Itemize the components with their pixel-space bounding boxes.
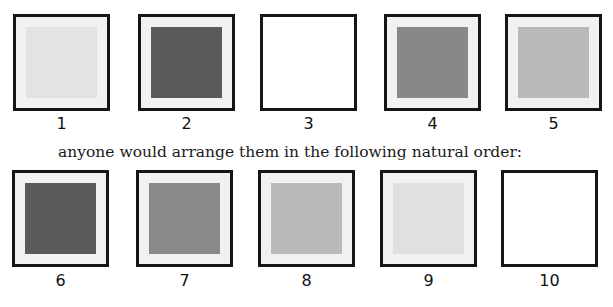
swatch-1-fill [26,27,97,98]
swatch-7-label: 7 [136,271,233,290]
caption-text: anyone would arrange them in the followi… [58,143,522,161]
swatch-10 [501,170,598,267]
swatch-8-fill [271,183,342,254]
swatch-5-label: 5 [505,114,602,133]
swatch-3-label: 3 [260,114,357,133]
swatch-4-fill [397,27,468,98]
swatch-5 [505,14,602,111]
swatch-2 [138,14,235,111]
swatch-1-label: 1 [13,114,110,133]
swatch-10-label: 10 [501,271,598,290]
swatch-4-label: 4 [384,114,481,133]
swatch-8 [258,170,355,267]
swatch-6-fill [25,183,96,254]
swatch-7 [136,170,233,267]
swatch-6 [12,170,109,267]
swatch-9-label: 9 [380,271,477,290]
swatch-7-fill [149,183,220,254]
swatch-5-fill [518,27,589,98]
swatch-3 [260,14,357,111]
swatch-4 [384,14,481,111]
swatch-2-label: 2 [138,114,235,133]
swatch-9-fill [393,183,464,254]
swatch-6-label: 6 [12,271,109,290]
swatch-2-fill [151,27,222,98]
swatch-8-label: 8 [258,271,355,290]
swatch-9 [380,170,477,267]
swatch-1 [13,14,110,111]
